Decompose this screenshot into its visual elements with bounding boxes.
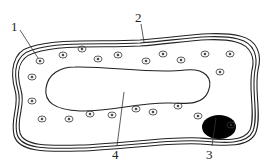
granule xyxy=(28,74,36,80)
label-1: 1 xyxy=(11,20,18,33)
vacuole xyxy=(46,67,210,111)
granule xyxy=(159,51,167,57)
granule xyxy=(142,58,150,64)
granule xyxy=(201,51,209,57)
granule xyxy=(216,69,224,75)
cell-diagram xyxy=(0,0,272,168)
granule xyxy=(149,109,157,115)
nucleus xyxy=(202,115,236,139)
leader-lines xyxy=(20,24,216,146)
granule xyxy=(114,52,122,58)
granule xyxy=(226,51,234,57)
granule xyxy=(177,57,185,63)
granule xyxy=(94,56,102,62)
granule xyxy=(65,116,73,122)
granule xyxy=(108,112,116,118)
leader-line-4 xyxy=(117,92,124,146)
leader-line-1 xyxy=(20,30,38,58)
granule xyxy=(59,52,67,58)
granule xyxy=(194,113,202,119)
label-3: 3 xyxy=(206,148,213,161)
granule xyxy=(38,116,46,122)
granule xyxy=(36,58,44,64)
granule xyxy=(86,111,94,117)
granule xyxy=(132,106,140,112)
granule xyxy=(174,103,182,109)
label-4: 4 xyxy=(112,148,119,161)
label-2: 2 xyxy=(135,11,142,24)
granule xyxy=(28,98,36,104)
